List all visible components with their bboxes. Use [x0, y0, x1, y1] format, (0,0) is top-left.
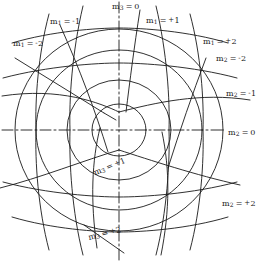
label-symbol: m: [216, 54, 224, 63]
label-equals: =: [25, 39, 36, 48]
figure-canvas: m3 = 0m1 = -1m1 = +1m1 = -2m1 = +2m2 = -…: [0, 0, 270, 263]
label-symbol: m: [226, 89, 234, 98]
axis-label-m1-plus2: m1 = +2: [203, 38, 237, 46]
line-m3-upper-left-long: [2, 93, 119, 112]
line-m3-minus2-left: [15, 58, 104, 113]
axis-label-m1-minus1: m1 = -1: [50, 18, 80, 26]
curve-m1-minus2: [36, 14, 49, 250]
label-equals: =: [238, 89, 249, 98]
label-symbol: m: [112, 2, 120, 11]
axis-label-m2-minus2: m2 = -2: [216, 55, 246, 63]
label-equals: =: [240, 128, 251, 137]
label-equals: =: [215, 37, 226, 46]
axis-label-m1-plus1: m1 = +1: [146, 17, 180, 25]
label-equals: =: [234, 199, 245, 208]
label-symbol: m: [222, 199, 230, 208]
label-symbol: m: [50, 17, 58, 26]
label-value: 2: [250, 199, 255, 208]
label-symbol: m: [13, 39, 21, 48]
label-value: 1: [174, 16, 179, 25]
line-m3-minus1-upper: [126, 10, 140, 112]
curve-m1-plus2: [190, 14, 203, 250]
label-value: 2: [241, 54, 246, 63]
label-equals: =: [124, 2, 135, 11]
label-symbol: m: [146, 16, 154, 25]
axis-label-m1-minus2: m1 = -2: [13, 40, 43, 48]
line-m3-upper-right-long: [119, 97, 250, 112]
label-symbol: m: [228, 128, 236, 137]
axis-label-m3-0: m3 = 0: [112, 3, 140, 11]
label-equals: =: [228, 54, 239, 63]
label-equals: =: [62, 17, 73, 26]
label-equals: =: [158, 16, 169, 25]
label-value: 0: [134, 2, 139, 11]
axis-label-m2-0: m2 = 0: [228, 129, 256, 137]
curve-m1-minus1: [70, 6, 83, 255]
label-symbol: m: [203, 37, 211, 46]
axis-label-m2-plus2: m2 = +2: [222, 200, 256, 208]
line-m3-lower-right: [119, 150, 240, 185]
label-value: 1: [251, 89, 256, 98]
curve-m1-plus1: [156, 6, 169, 255]
label-value: 1: [75, 17, 80, 26]
line-m3-minus2-left-ext: [104, 113, 116, 120]
axis-label-m2-minus1: m2 = -1: [226, 90, 256, 98]
label-value: 2: [38, 39, 43, 48]
label-value: 0: [250, 128, 255, 137]
label-value: 2: [231, 37, 236, 46]
